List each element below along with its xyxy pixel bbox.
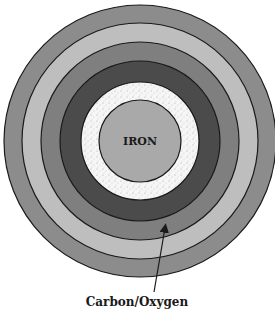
star-layers-diagram: IRON Carbon/Oxygen — [0, 0, 275, 315]
carbon-oxygen-label: Carbon/Oxygen — [86, 295, 189, 309]
iron-core-label: IRON — [123, 135, 157, 148]
